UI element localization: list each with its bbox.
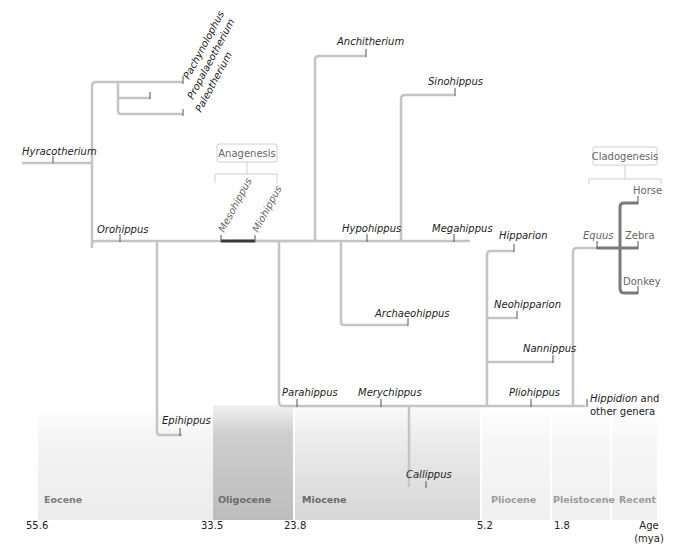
taxon-hyracotherium: Hyracotherium	[22, 146, 97, 157]
taxon-equus: Equus	[583, 230, 614, 241]
period-label-oligocene: Oligocene	[218, 494, 271, 505]
taxon-anchitherium: Anchitherium	[336, 36, 404, 47]
taxon-archaeohippus: Archaeohippus	[374, 308, 450, 319]
age-5-2: 5.2	[477, 520, 493, 531]
taxon-hippidion-suffix: and	[637, 393, 659, 404]
taxon-donkey: Donkey	[623, 276, 661, 287]
age-23-8: 23.8	[284, 520, 306, 531]
cladogenesis-label: Cladogenesis	[592, 151, 659, 162]
age-55-6: 55.6	[26, 520, 48, 531]
taxon-hippidion: Hippidion	[590, 393, 637, 404]
taxon-nannippus: Nannippus	[523, 343, 576, 354]
period-label-pliocene: Pliocene	[491, 494, 536, 505]
taxon-zebra: Zebra	[625, 230, 655, 241]
taxon-hypohippus: Hypohippus	[342, 223, 401, 234]
period-label-miocene: Miocene	[302, 494, 347, 505]
taxon-other-genera: other genera	[590, 406, 655, 417]
taxon-orohippus: Orohippus	[97, 224, 148, 235]
phylogeny-diagram: Eocene Oligocene Miocene Pliocene Pleist…	[0, 0, 681, 557]
taxon-miohippus: Miohippus	[250, 184, 284, 234]
taxon-neohipparion: Neohipparion	[494, 299, 561, 310]
age-1-8: 1.8	[554, 520, 570, 531]
anagenesis-callout: Anagenesis	[215, 144, 277, 183]
taxon-merychippus: Merychippus	[358, 387, 422, 398]
anagenesis-label: Anagenesis	[218, 148, 276, 159]
age-axis-label: Age	[639, 520, 658, 531]
taxon-horse: Horse	[633, 185, 662, 196]
taxon-parahippus: Parahippus	[282, 387, 338, 398]
taxon-mesohippus: Mesohippus	[216, 176, 254, 234]
taxon-sinohippus: Sinohippus	[428, 76, 483, 87]
age-axis-unit: (mya)	[634, 533, 664, 544]
taxon-hipparion: Hipparion	[499, 230, 547, 241]
taxon-megahippus: Megahippus	[432, 223, 493, 234]
age-33-5: 33.5	[201, 520, 223, 531]
period-label-recent: Recent	[619, 494, 657, 505]
taxon-pliohippus: Pliohippus	[509, 387, 560, 398]
taxon-callippus: Callippus	[406, 469, 452, 480]
taxon-epihippus: Epihippus	[162, 415, 211, 426]
taxon-hippidion-line: Hippidion and	[590, 393, 659, 404]
period-label-eocene: Eocene	[44, 494, 82, 505]
period-label-pleistocene: Pleistocene	[553, 494, 615, 505]
cladogenesis-callout: Cladogenesis	[589, 147, 661, 184]
